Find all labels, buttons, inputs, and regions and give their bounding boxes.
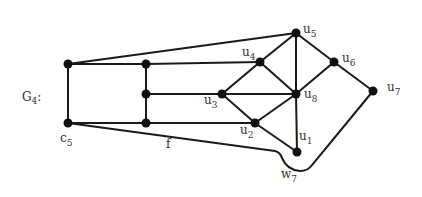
edge-u3-u2: [222, 94, 255, 123]
node-c5: [64, 119, 73, 128]
edge-b1-u4: [146, 62, 260, 64]
node-u4: [256, 58, 265, 67]
nodes: [64, 29, 378, 157]
node-u7: [369, 87, 378, 96]
label-u5: u5: [303, 22, 317, 39]
edge-u2-u8: [255, 94, 296, 123]
node-u6: [330, 58, 339, 67]
node-b3: [142, 119, 151, 128]
node-b2: [142, 90, 151, 99]
edge-u4-u8: [260, 62, 296, 94]
label-f: f: [166, 137, 172, 151]
edge-f-c5-w7-u7: [68, 91, 373, 171]
node-u2: [251, 119, 260, 128]
graph-name-label: G4:: [22, 90, 41, 106]
graph-g4-diagram: G4: u5 u4 u6 u7 u3 u8 u2 u1 c5 f w7: [0, 0, 422, 197]
node-u1: [293, 148, 302, 157]
label-u8: u8: [304, 87, 318, 104]
edge-u3-u4: [222, 62, 260, 94]
label-u1: u1: [299, 129, 312, 146]
node-a: [64, 60, 73, 69]
label-u6: u6: [342, 51, 356, 68]
label-u3: u3: [204, 93, 218, 110]
node-u8: [292, 90, 301, 99]
edge-u8-u1: [296, 94, 297, 152]
label-u4: u4: [242, 45, 256, 62]
node-u5: [292, 29, 301, 38]
label-c5: c5: [60, 131, 73, 148]
edge-u6-u8: [296, 62, 334, 94]
node-u3: [218, 90, 227, 99]
edge-u2-u1: [255, 123, 297, 152]
label-u7: u7: [387, 80, 401, 97]
node-b1: [142, 60, 151, 69]
